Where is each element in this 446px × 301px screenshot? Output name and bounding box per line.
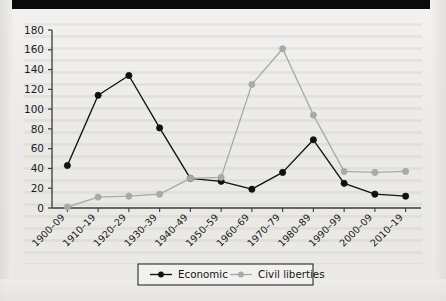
line-chart-svg: 020406080100120140160180 1900–091910–191… xyxy=(0,0,446,301)
chart-figure: 020406080100120140160180 1900–091910–191… xyxy=(0,0,446,301)
y-axis-tick-label: 0 xyxy=(37,202,44,214)
x-axis-tick-label: 1980–89 xyxy=(276,212,313,249)
scanned-chart-page: 020406080100120140160180 1900–091910–191… xyxy=(0,0,446,301)
x-axis-tick-label: 1970–79 xyxy=(245,212,282,249)
x-axis-tick-label: 1940–49 xyxy=(153,212,190,249)
data-point: 1970–79: 36 xyxy=(280,169,286,175)
data-point: 2000–09: 14 xyxy=(372,191,378,197)
data-point: 1970–79: 161 xyxy=(280,46,286,52)
x-axis: 1900–091910–191920–291930–391940–491950–… xyxy=(30,208,421,249)
y-axis-tick-label: 40 xyxy=(31,162,44,174)
data-point: 1990–99: 25 xyxy=(341,180,347,186)
data-point: 1930–39: 81 xyxy=(157,125,163,131)
data-point: 1910–19: 11 xyxy=(95,194,101,200)
x-axis-tick-label: 1990–99 xyxy=(306,212,343,249)
x-axis-tick-label: 1960–69 xyxy=(214,212,251,249)
data-point: 2010–19: 12 xyxy=(403,193,409,199)
y-axis-tick-label: 60 xyxy=(31,142,44,154)
x-axis-tick-label: 1950–59 xyxy=(183,212,220,249)
data-point: 1980–89: 94 xyxy=(310,112,316,118)
data-point: 1920–29: 12 xyxy=(126,193,132,199)
y-axis-tick-label: 20 xyxy=(31,182,44,194)
y-axis-tick-label: 120 xyxy=(24,83,44,95)
y-axis-tick-label: 180 xyxy=(24,24,44,36)
y-axis: 020406080100120140160180 xyxy=(24,24,52,214)
x-axis-tick-label: 1910–19 xyxy=(60,212,97,249)
x-axis-tick-label: 1920–29 xyxy=(91,212,128,249)
y-axis-tick-label: 140 xyxy=(24,63,44,75)
x-axis-tick-label: 1930–39 xyxy=(122,212,159,249)
data-point: 1990–99: 37 xyxy=(341,168,347,174)
data-point: 1910–19: 114 xyxy=(95,92,101,98)
y-axis-tick-label: 160 xyxy=(24,43,44,55)
data-point: 1950–59: 31 xyxy=(218,174,224,180)
data-point: 2000–09: 36 xyxy=(372,169,378,175)
data-point: 1980–89: 69 xyxy=(310,137,316,143)
x-axis-tick-label: 2010–19 xyxy=(368,212,405,249)
x-axis-tick-label: 1900–09 xyxy=(30,212,67,249)
data-point: 1960–69: 19 xyxy=(249,186,255,192)
legend-label: Civil liberties xyxy=(258,268,325,280)
data-point: 1900–09: 1 xyxy=(64,204,70,210)
data-point: 1960–69: 125 xyxy=(249,81,255,87)
y-axis-tick-label: 100 xyxy=(24,103,44,115)
data-point: 2010–19: 37 xyxy=(403,168,409,174)
data-point: 1940–49: 30 xyxy=(187,175,193,181)
y-axis-tick-label: 80 xyxy=(31,123,44,135)
data-point: 1930–39: 14 xyxy=(157,191,163,197)
chart-legend: EconomicCivil liberties xyxy=(138,264,325,285)
legend-label: Economic xyxy=(178,268,228,280)
data-point: 1900–09: 43 xyxy=(64,162,70,168)
data-point: 1920–29: 134 xyxy=(126,72,132,78)
data-series-layer: 1900–09: 431910–19: 1141920–29: 1341930–… xyxy=(64,46,408,210)
x-axis-tick-label: 2000–09 xyxy=(337,212,374,249)
series-economic: 1900–09: 431910–19: 1141920–29: 1341930–… xyxy=(64,72,408,199)
